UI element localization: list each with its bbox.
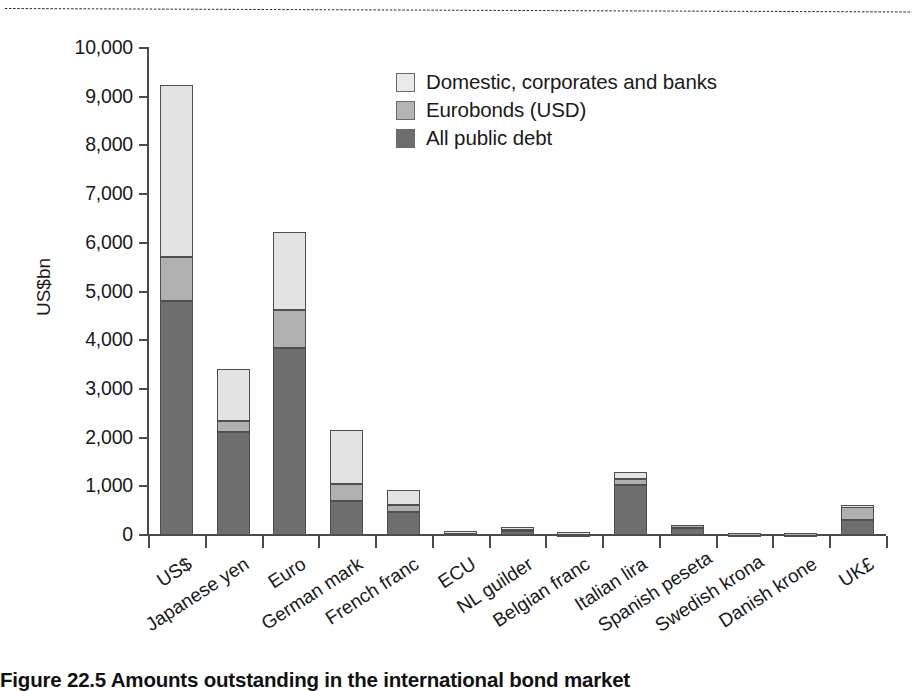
bar-swedish-krona[interactable] bbox=[728, 48, 761, 535]
bar-segment bbox=[217, 432, 250, 535]
bar-segment bbox=[387, 512, 420, 535]
y-axis-tick-label: 1,000 bbox=[33, 476, 133, 496]
bar-segment bbox=[557, 532, 590, 535]
y-axis-tick bbox=[139, 291, 148, 293]
bar-segment bbox=[273, 348, 306, 535]
x-axis-tick bbox=[886, 536, 888, 548]
x-axis-tick bbox=[205, 536, 207, 548]
y-axis-tick bbox=[139, 242, 148, 244]
y-axis-tick bbox=[139, 339, 148, 341]
y-axis-tick bbox=[139, 47, 148, 49]
bar-segment bbox=[841, 505, 874, 508]
bar-belgian-franc[interactable] bbox=[557, 48, 590, 535]
bar-japanese-yen[interactable] bbox=[217, 48, 250, 535]
y-axis-tick bbox=[139, 388, 148, 390]
x-axis-tick bbox=[716, 536, 718, 548]
y-axis-tick-label: 0 bbox=[33, 525, 133, 545]
bar-ecu[interactable] bbox=[444, 48, 477, 535]
y-axis-tick bbox=[139, 437, 148, 439]
y-axis-tick-label: 9,000 bbox=[33, 87, 133, 107]
dotted-rule-decoration bbox=[4, 7, 912, 13]
bar-nl-guilder[interactable] bbox=[501, 48, 534, 535]
figure-container: 01,0002,0003,0004,0005,0006,0007,0008,00… bbox=[0, 0, 916, 691]
bar-segment bbox=[444, 531, 477, 534]
bar-italian-lira[interactable] bbox=[614, 48, 647, 535]
bar-segment bbox=[501, 527, 534, 530]
bar-segment bbox=[841, 520, 874, 535]
x-axis-tick bbox=[148, 536, 150, 548]
bar-danish-krone[interactable] bbox=[784, 48, 817, 535]
bar-us[interactable] bbox=[160, 48, 193, 535]
bar-segment bbox=[614, 472, 647, 479]
y-axis-tick-labels: 01,0002,0003,0004,0005,0006,0007,0008,00… bbox=[0, 0, 133, 691]
bar-segment bbox=[160, 301, 193, 535]
bar-segment bbox=[728, 533, 761, 536]
bar-segment bbox=[614, 479, 647, 485]
bar-segment bbox=[160, 85, 193, 258]
x-axis-tick bbox=[602, 536, 604, 548]
bar-segment bbox=[160, 257, 193, 301]
y-axis-tick bbox=[139, 96, 148, 98]
y-axis-tick bbox=[139, 485, 148, 487]
y-axis-tick-label: 3,000 bbox=[33, 379, 133, 399]
bar-segment bbox=[614, 485, 647, 535]
y-axis-tick-label: 2,000 bbox=[33, 428, 133, 448]
bar-segment bbox=[387, 505, 420, 512]
bar-segment bbox=[784, 533, 817, 536]
bar-segment bbox=[501, 531, 534, 535]
bar-uk[interactable] bbox=[841, 48, 874, 535]
x-axis-tick bbox=[489, 536, 491, 548]
bar-euro[interactable] bbox=[273, 48, 306, 535]
x-axis-tick bbox=[318, 536, 320, 548]
x-axis-tick bbox=[375, 536, 377, 548]
x-axis-tick bbox=[545, 536, 547, 548]
bar-french-franc[interactable] bbox=[387, 48, 420, 535]
bar-segment bbox=[273, 232, 306, 310]
y-axis-tick-label: 10,000 bbox=[33, 38, 133, 58]
x-axis-tick bbox=[659, 536, 661, 548]
bar-segment bbox=[330, 501, 363, 535]
bar-segment bbox=[671, 528, 704, 535]
y-axis-title: US$bn bbox=[33, 217, 55, 357]
bar-segment bbox=[671, 525, 704, 528]
x-axis-tick bbox=[772, 536, 774, 548]
bar-segment bbox=[330, 484, 363, 501]
y-axis-tick-label: 7,000 bbox=[33, 184, 133, 204]
figure-caption: Figure 22.5 Amounts outstanding in the i… bbox=[0, 668, 916, 691]
bar-segment bbox=[387, 490, 420, 505]
y-axis-tick bbox=[139, 193, 148, 195]
y-axis-tick bbox=[139, 534, 148, 536]
bar-segment bbox=[273, 310, 306, 348]
x-axis-tick bbox=[432, 536, 434, 548]
y-axis-tick-label: 8,000 bbox=[33, 135, 133, 155]
bar-segment bbox=[217, 369, 250, 420]
y-axis-tick bbox=[139, 144, 148, 146]
bar-segment bbox=[217, 421, 250, 432]
x-axis-tick bbox=[829, 536, 831, 548]
bar-spanish-peseta[interactable] bbox=[671, 48, 704, 535]
x-axis-tick bbox=[262, 536, 264, 548]
bar-segment bbox=[330, 430, 363, 484]
bar-german-mark[interactable] bbox=[330, 48, 363, 535]
